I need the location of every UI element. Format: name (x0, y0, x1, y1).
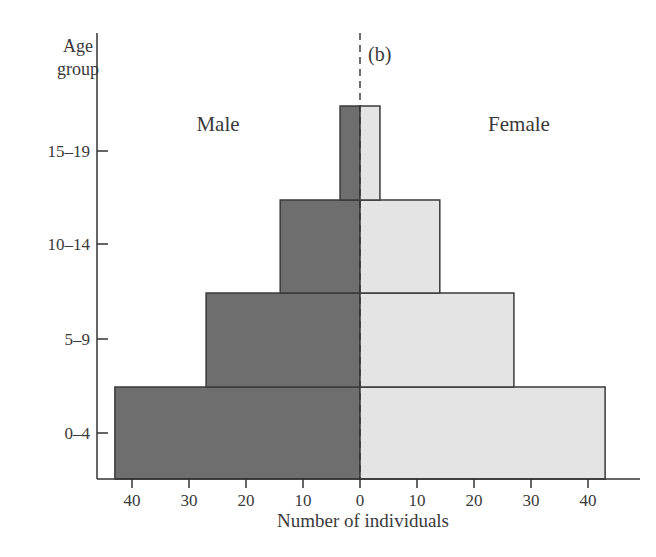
bar-male-2 (280, 200, 360, 293)
x-ticks: 40302010010203040 (124, 479, 597, 510)
x-tick-label: 10 (295, 491, 312, 510)
bar-male-3 (340, 106, 360, 200)
y-ticks: 0–45–910–1415–19 (48, 142, 109, 443)
x-tick-label: 30 (181, 491, 198, 510)
y-tick-label: 10–14 (48, 235, 91, 254)
female-label: Female (488, 112, 550, 136)
bar-female-1 (360, 293, 514, 387)
x-tick-label: 30 (523, 491, 540, 510)
x-tick-label: 20 (466, 491, 483, 510)
x-tick-label: 0 (356, 491, 365, 510)
x-tick-label: 10 (409, 491, 426, 510)
male-label: Male (196, 112, 239, 136)
bar-female-3 (360, 106, 380, 200)
y-tick-label: 5–9 (65, 330, 91, 349)
bar-female-2 (360, 200, 440, 293)
x-tick-label: 20 (238, 491, 255, 510)
y-axis-label-line1: Age (63, 36, 93, 56)
bar-male-1 (206, 293, 360, 387)
bar-male-0 (115, 387, 360, 479)
panel-label: (b) (368, 43, 391, 66)
x-axis-label: Number of individuals (277, 510, 449, 531)
x-tick-label: 40 (124, 491, 141, 510)
y-axis-label-line2: group (57, 59, 99, 79)
bar-female-0 (360, 387, 605, 479)
y-tick-label: 0–4 (65, 424, 91, 443)
y-tick-label: 15–19 (48, 142, 91, 161)
x-tick-label: 40 (580, 491, 597, 510)
population-pyramid-chart: 0–45–910–1415–19 40302010010203040 Age g… (0, 0, 656, 557)
